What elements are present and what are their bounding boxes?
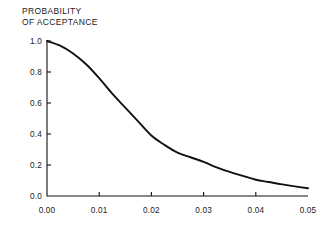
y-axis-tick-labels: 0.00.20.40.60.81.0 xyxy=(30,37,42,201)
plot-area: 0.00.20.40.60.81.0 0.000.010.020.030.040… xyxy=(0,0,325,236)
y-axis-tick-label: 0.6 xyxy=(30,99,42,108)
y-axis-tick-label: 0.0 xyxy=(30,192,42,201)
y-axis-tick-label: 0.8 xyxy=(30,68,42,77)
chart-figure: PROBABILITY OF ACCEPTANCE 0.00.20.40.60.… xyxy=(0,0,325,236)
y-axis-tick-label: 0.2 xyxy=(30,161,42,170)
oc-curve-line xyxy=(47,41,308,188)
x-axis-tick-label: 0.02 xyxy=(143,206,160,215)
y-axis-tick-label: 0.4 xyxy=(30,130,42,139)
x-axis-tick-label: 0.05 xyxy=(300,206,317,215)
x-axis-tick-label: 0.01 xyxy=(91,206,108,215)
y-axis-ticks xyxy=(47,41,51,165)
y-axis-tick-label: 1.0 xyxy=(30,37,42,46)
x-axis-tick-label: 0.00 xyxy=(39,206,56,215)
x-axis-ticks xyxy=(99,192,256,196)
x-axis-tick-labels: 0.000.010.020.030.040.05 xyxy=(39,206,317,215)
x-axis-tick-label: 0.04 xyxy=(247,206,264,215)
x-axis-tick-label: 0.03 xyxy=(195,206,212,215)
